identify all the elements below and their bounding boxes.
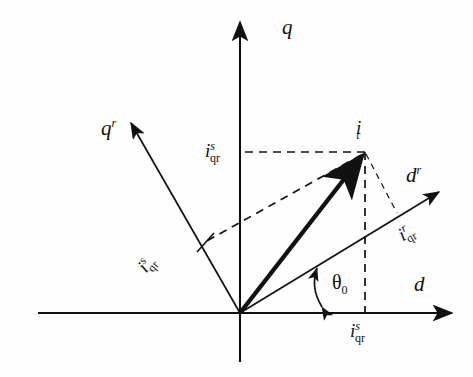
- theta-subscript: 0: [342, 283, 348, 297]
- vector-diagram-figure: q d qr dr ir isqr isqr isqr irqr θ0: [0, 0, 473, 377]
- q-rotor-axis-label: qr: [101, 117, 116, 139]
- projection-label-q-stationary: isqr: [205, 140, 220, 164]
- q-axis-label: q: [282, 17, 293, 38]
- q-rotor-base: q: [101, 116, 112, 140]
- projection-label-d-stationary: isqr: [350, 320, 365, 344]
- proj-d-stat-subscript: qr: [355, 331, 365, 345]
- d-rotor-superscript: r: [417, 163, 422, 177]
- theta-zero-label: θ0: [332, 272, 348, 296]
- q-axis-rotor: [131, 123, 240, 313]
- theta-symbol: θ: [332, 271, 342, 293]
- theta-angle-arc: [314, 268, 322, 307]
- rotor-current-subscript: r: [356, 128, 360, 142]
- projection-line-d-rotor: [366, 154, 397, 213]
- d-rotor-axis-label: dr: [406, 164, 421, 186]
- d-rotor-base: d: [406, 163, 417, 187]
- projection-line-q-rotor: [205, 155, 361, 242]
- d-axis-label: d: [414, 274, 425, 295]
- rotor-current-label: ir: [356, 118, 360, 141]
- diagram-canvas: [0, 0, 473, 377]
- proj-q-stat-subscript: qr: [210, 151, 220, 165]
- q-rotor-superscript: r: [112, 116, 117, 130]
